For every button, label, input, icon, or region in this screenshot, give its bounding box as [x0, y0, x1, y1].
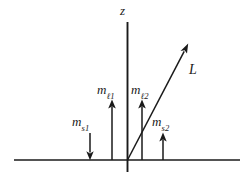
z-axis-label: z: [120, 4, 125, 17]
vector-ms1-subscript: s1: [81, 123, 89, 133]
vector-ms1-label: ms1: [72, 115, 89, 131]
vector-ml1: [108, 100, 116, 161]
vector-ms1-arrowhead: [86, 151, 93, 160]
vector-ms2-subscript: s2: [161, 123, 169, 133]
vector-L-shaft: [128, 51, 185, 160]
vector-ml2-subscript: ℓ2: [140, 91, 148, 101]
figure-canvas: z L mℓ1 mℓ2 ms1 ms2: [0, 0, 250, 181]
vector-ms2-subscript-index: 2: [165, 123, 169, 133]
vector-ms2-label: ms2: [152, 115, 169, 131]
vector-ml1-symbol: m: [97, 82, 106, 97]
vector-ms1-subscript-index: 1: [85, 123, 89, 133]
vector-L-label: L: [189, 63, 197, 77]
vector-ms2-symbol: m: [152, 114, 161, 129]
vector-ml2-subscript-index: 2: [144, 91, 148, 101]
vector-L: [128, 44, 189, 160]
vector-diagram-svg: [0, 0, 250, 181]
vector-ml1-subscript: ℓ1: [106, 91, 114, 101]
vector-L-label-text: L: [189, 62, 197, 77]
vector-ml2-label: mℓ2: [131, 83, 149, 99]
vector-ml2: [138, 100, 146, 161]
vector-ml1-label: mℓ1: [97, 83, 115, 99]
vector-ml1-subscript-index: 1: [110, 91, 114, 101]
z-axis-label-text: z: [120, 3, 125, 18]
vector-ms1-symbol: m: [72, 114, 81, 129]
vector-ml2-symbol: m: [131, 82, 140, 97]
vector-ms1: [86, 133, 93, 160]
vector-ms2: [159, 133, 166, 161]
